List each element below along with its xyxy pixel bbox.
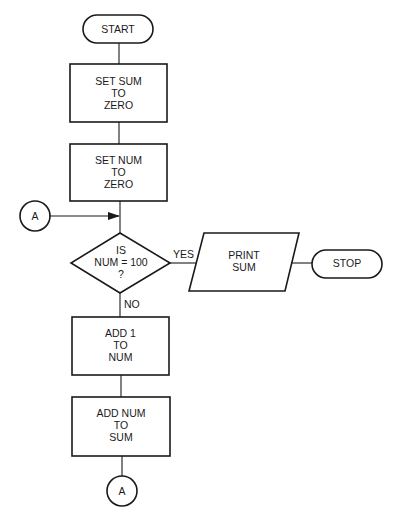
start-label: START: [101, 23, 135, 35]
no-branch-label: NO: [124, 298, 140, 310]
add-num-line-1: ADD NUM: [97, 407, 146, 419]
flowchart-canvas: START SET SUM TO ZERO SET NUM TO ZERO A …: [0, 0, 397, 526]
add-one-line-3: NUM: [109, 351, 133, 363]
yes-branch-label: YES: [173, 248, 194, 260]
stop-label: STOP: [333, 257, 361, 269]
connector-a-entry: A: [20, 201, 50, 231]
add-one-line-1: ADD 1: [105, 327, 136, 339]
add-num-line-3: SUM: [109, 431, 132, 443]
set-sum-line-3: ZERO: [104, 99, 133, 111]
stop-terminal: STOP: [312, 250, 382, 278]
decision-line-1: IS: [116, 244, 126, 256]
connector-a-entry-label: A: [31, 210, 38, 222]
start-terminal: START: [83, 15, 153, 43]
add-one-line-2: TO: [113, 339, 127, 351]
decision-line-2: NUM = 100: [94, 256, 148, 268]
print-sum-line-2: SUM: [232, 261, 255, 273]
set-num-line-1: SET NUM: [95, 154, 142, 166]
connector-a-exit-label: A: [118, 485, 125, 497]
add-one-process: ADD 1 TO NUM: [72, 317, 169, 375]
set-num-line-3: ZERO: [104, 178, 133, 190]
add-num-process: ADD NUM TO SUM: [72, 397, 170, 456]
decision-line-3: ?: [118, 268, 124, 280]
add-num-line-2: TO: [114, 419, 128, 431]
connector-a-exit: A: [107, 476, 137, 506]
set-num-process: SET NUM TO ZERO: [70, 144, 167, 201]
set-sum-line-1: SET SUM: [95, 75, 141, 87]
decision-diamond: IS NUM = 100 ?: [71, 233, 170, 293]
print-sum-io: PRINT SUM: [189, 233, 299, 291]
set-num-line-2: TO: [111, 166, 125, 178]
print-sum-line-1: PRINT: [228, 249, 260, 261]
set-sum-line-2: TO: [111, 87, 125, 99]
set-sum-process: SET SUM TO ZERO: [70, 64, 167, 122]
